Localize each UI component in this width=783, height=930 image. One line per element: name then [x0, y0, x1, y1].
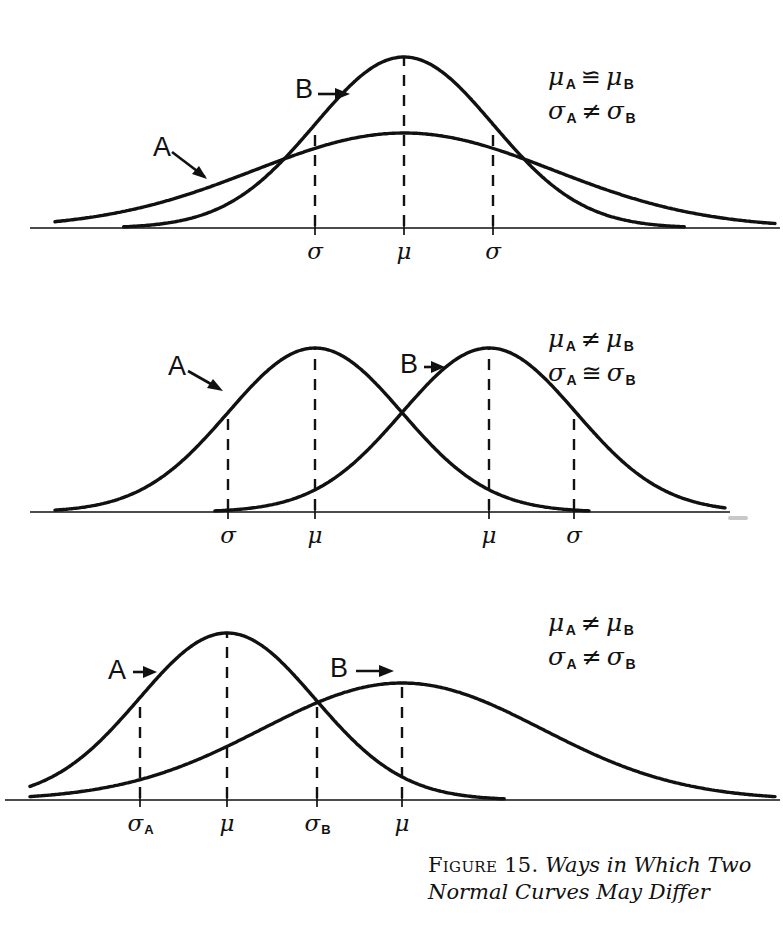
panel-1-relation-mean: μA≌μB	[548, 60, 635, 94]
panel-3-tick-label-mu-a: μ	[220, 812, 235, 835]
panel-3-label-b-arrow	[356, 665, 394, 677]
panel-2-curve-label-a: A	[168, 353, 186, 380]
figure-15-normal-curves: A B σ μ σ μA≌μB σA≠σB A B σ μ μ σ μA≠μB …	[0, 0, 783, 930]
panel-1-curve-label-b: B	[295, 76, 313, 103]
panel-1-relations: μA≌μB σA≠σB	[548, 60, 635, 128]
panel-3-tick-label-sigma-a: σA	[127, 812, 152, 835]
panel-2-relation-sd: σA≅σB	[548, 356, 635, 390]
panel-3-label-a-arrow	[133, 666, 157, 678]
panel-3-curve-label-a: A	[108, 657, 126, 684]
panel-1-tick-label-sigma-right: σ	[485, 240, 501, 263]
panel-1-curve-label-a: A	[153, 134, 171, 161]
scan-artifact	[728, 516, 748, 520]
panel-2-relations: μA≠μB σA≅σB	[548, 322, 635, 390]
panel-3-curve-a	[30, 633, 504, 799]
panel-3-tick-label-sigma-b: σB	[304, 812, 329, 835]
curves-canvas	[0, 0, 783, 930]
panel-2-label-a-arrow	[188, 371, 223, 391]
panel-2-tick-label-mu-a: μ	[308, 524, 323, 547]
figure-caption: Figure 15. Ways in Which Two Normal Curv…	[428, 852, 758, 906]
panel-3-relation-sd: σA≠σB	[548, 640, 635, 674]
panel-2-tick-label-sigma-left: σ	[220, 524, 236, 547]
panel-3-relation-mean: μA≠μB	[548, 606, 635, 640]
figure-caption-label: Figure 15.	[428, 853, 538, 877]
panel-3-curve-b	[30, 683, 775, 797]
panel-2-curve-label-b: B	[400, 351, 418, 378]
panel-1-label-a-arrow	[172, 152, 207, 179]
panel-2-curve-b	[215, 348, 725, 511]
panel-2-relation-mean: μA≠μB	[548, 322, 635, 356]
panel-1-tick-label-sigma-left: σ	[307, 240, 323, 263]
panel-3-tick-label-mu-b: μ	[395, 812, 410, 835]
panel-2-tick-label-sigma-right: σ	[566, 524, 582, 547]
panel-1-relation-sd: σA≠σB	[548, 94, 635, 128]
panel-3-curve-label-b: B	[330, 655, 348, 682]
panel-1-tick-label-mu: μ	[397, 240, 412, 263]
panel-2-tick-label-mu-b: μ	[482, 524, 497, 547]
panel-3-relations: μA≠μB σA≠σB	[548, 606, 635, 674]
